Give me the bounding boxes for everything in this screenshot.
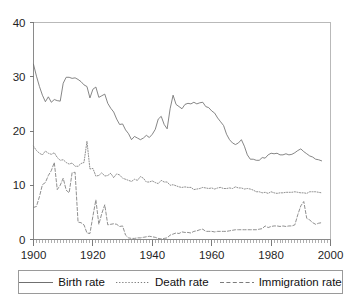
y-tick-label: 30 — [13, 71, 26, 83]
legend-swatch-dashed-icon — [220, 278, 254, 287]
x-tick-label: 1940 — [140, 249, 166, 261]
x-tick-label: 1960 — [199, 249, 225, 261]
x-axis: 190019201940196019802000 — [21, 240, 344, 261]
plot-frame-border — [34, 23, 331, 240]
x-tick-label: 1980 — [258, 249, 284, 261]
y-axis-tick-labels: 010203040 — [13, 17, 26, 246]
legend-entry-birth-rate: Birth rate — [19, 276, 105, 288]
chart-figure: 010203040 190019201940196019802000 Birth… — [0, 0, 357, 305]
legend-entry-immigration-rate: Immigration rate — [220, 276, 342, 288]
legend-swatch-solid-icon — [19, 278, 53, 287]
y-tick-label: 10 — [13, 179, 26, 191]
y-axis: 010203040 — [13, 17, 34, 246]
x-tick-label: 2000 — [318, 249, 344, 261]
x-tick-label: 1900 — [21, 249, 47, 261]
chart-legend: Birth rate Death rate Immigration rate — [18, 270, 343, 294]
x-axis-minor-ticks — [36, 240, 327, 244]
legend-label-birth-rate: Birth rate — [58, 276, 105, 288]
y-tick-label: 0 — [19, 234, 25, 246]
plot-frame — [34, 23, 331, 240]
legend-label-immigration-rate: Immigration rate — [259, 276, 342, 288]
data-series-group — [34, 64, 322, 239]
line-chart-canvas: 010203040 190019201940196019802000 — [0, 0, 357, 268]
y-tick-label: 20 — [13, 125, 26, 137]
y-axis-ticks — [30, 23, 34, 240]
x-tick-label: 1920 — [80, 249, 106, 261]
series-line-death-rate — [34, 141, 322, 193]
series-line-immigration-rate — [34, 162, 322, 238]
legend-label-death-rate: Death rate — [155, 276, 209, 288]
x-axis-tick-labels: 190019201940196019802000 — [21, 249, 344, 261]
series-line-birth-rate — [34, 64, 322, 161]
y-tick-label: 40 — [13, 17, 26, 29]
legend-entry-death-rate: Death rate — [116, 276, 209, 288]
legend-swatch-dotted-icon — [116, 278, 150, 287]
